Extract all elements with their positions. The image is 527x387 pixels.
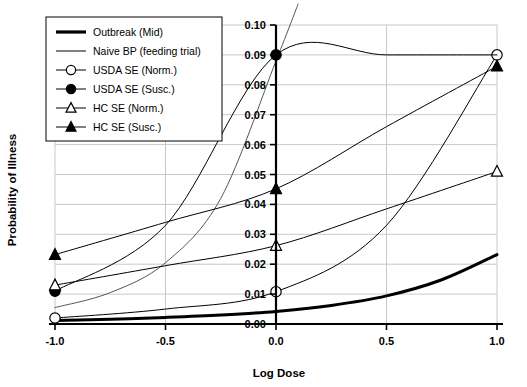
x-tick-label: 0.0	[268, 335, 283, 347]
y-tick-label: 0.03	[245, 228, 266, 240]
y-axis-title: Probability of Illness	[6, 134, 18, 246]
y-tick-label: 0.04	[245, 198, 267, 210]
y-tick-label: 0.00	[245, 318, 266, 330]
x-tick-label: -1.0	[46, 335, 65, 347]
y-tick-label: 0.09	[245, 49, 266, 61]
y-tick-label: 0.01	[245, 288, 266, 300]
y-tick-label: 0.10	[245, 19, 266, 31]
legend-item-label: HC SE (Susc.)	[93, 121, 161, 133]
legend-item-5[interactable]: HC SE (Susc.)	[56, 121, 161, 133]
x-axis-title: Log Dose	[253, 367, 305, 379]
chart-legend[interactable]: Outbreak (Mid)Naive BP (feeding trial)US…	[46, 17, 222, 141]
y-tick-label: 0.07	[245, 109, 266, 121]
legend-item-label: Outbreak (Mid)	[93, 26, 163, 38]
chart-container: -1.0-0.50.00.51.00.000.010.020.030.040.0…	[0, 0, 527, 387]
legend-item-label: USDA SE (Norm.)	[93, 64, 177, 76]
y-tick-label: 0.08	[245, 79, 266, 91]
x-tick-label: 1.0	[489, 335, 504, 347]
legend-item-label: HC SE (Norm.)	[93, 102, 164, 114]
y-tick-label: 0.05	[245, 169, 266, 181]
legend-item-label: Naive BP (feeding trial)	[93, 45, 201, 57]
y-tick-label: 0.02	[245, 258, 266, 270]
x-tick-label: 0.5	[379, 335, 394, 347]
probability-of-illness-chart: -1.0-0.50.00.51.00.000.010.020.030.040.0…	[0, 0, 527, 387]
legend-marker-filled-circle	[66, 84, 75, 93]
legend-item-3[interactable]: USDA SE (Susc.)	[56, 83, 175, 95]
legend-marker-open-circle	[66, 65, 75, 74]
legend-item-label: USDA SE (Susc.)	[93, 83, 175, 95]
legend-item-4[interactable]: HC SE (Norm.)	[56, 102, 164, 114]
marker-open-circle	[50, 313, 60, 323]
x-tick-label: -0.5	[156, 335, 175, 347]
y-tick-label: 0.06	[245, 139, 266, 151]
